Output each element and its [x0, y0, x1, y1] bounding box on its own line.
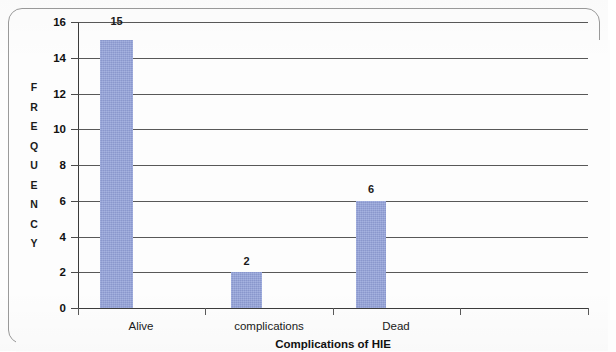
x-tick-mark-4 — [588, 308, 589, 315]
y-tick-mark-6 — [71, 201, 79, 202]
x-tick-mark-0 — [78, 308, 79, 315]
bar-complications — [231, 272, 262, 308]
gridline-10 — [78, 129, 588, 130]
x-tick-mark-1 — [205, 308, 206, 315]
y-tick-label-8: 8 — [40, 160, 66, 171]
gridline-4 — [78, 237, 588, 238]
gridline-16 — [78, 22, 588, 23]
gridline-14 — [78, 58, 588, 59]
y-tick-label-14: 14 — [40, 53, 66, 64]
gridline-8 — [78, 165, 588, 166]
y-tick-mark-8 — [71, 165, 79, 166]
bar-value-complications: 2 — [227, 256, 267, 267]
y-tick-label-12: 12 — [40, 89, 66, 100]
x-category-label-complications: complications — [209, 320, 329, 332]
y-tick-label-10: 10 — [40, 124, 66, 135]
y-tick-mark-10 — [71, 129, 79, 130]
gridline-12 — [78, 94, 588, 95]
y-tick-label-2: 2 — [40, 267, 66, 278]
y-tick-label-6: 6 — [40, 196, 66, 207]
y-tick-label-16: 16 — [40, 17, 66, 28]
gridline-2 — [78, 272, 588, 273]
y-tick-mark-14 — [71, 58, 79, 59]
y-tick-mark-2 — [71, 272, 79, 273]
y-tick-label-4: 4 — [40, 232, 66, 243]
y-tick-label-0: 0 — [40, 303, 66, 314]
y-tick-mark-12 — [71, 94, 79, 95]
y-tick-mark-16 — [71, 22, 79, 23]
bar-alive — [100, 40, 133, 308]
gridline-6 — [78, 201, 588, 202]
y-axis-title-letter: Q — [26, 137, 42, 157]
x-tick-mark-3 — [460, 308, 461, 315]
y-axis-title-letter: E — [26, 176, 42, 196]
x-axis-title: Complications of HIE — [78, 338, 588, 350]
bar-value-dead: 6 — [351, 184, 391, 195]
y-tick-mark-4 — [71, 237, 79, 238]
x-category-label-dead: Dead — [336, 320, 456, 332]
y-axis-title-letter: R — [26, 98, 42, 118]
x-category-label-alive: Alive — [81, 320, 201, 332]
x-tick-mark-2 — [333, 308, 334, 315]
bar-value-alive: 15 — [97, 16, 137, 27]
bar-dead — [356, 201, 386, 308]
